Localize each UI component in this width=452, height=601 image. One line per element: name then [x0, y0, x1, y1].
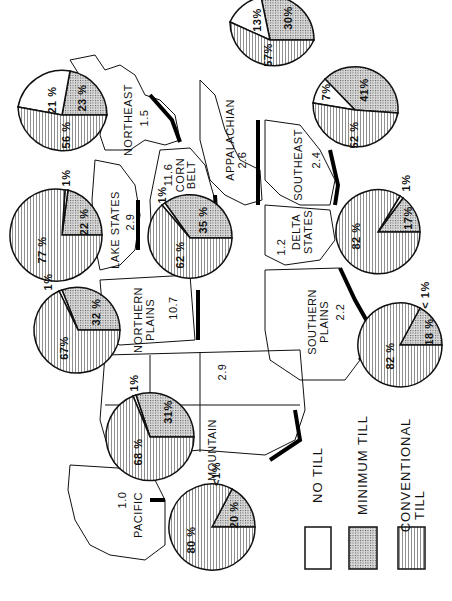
- legend: [305, 527, 425, 569]
- region-value-northeast: 1.5: [139, 110, 150, 127]
- pie-label-pacific-minimum-till: 20 %: [229, 501, 240, 528]
- region-label-belt: BELT: [186, 161, 197, 190]
- region-value-lake-states: 2.9: [125, 214, 136, 231]
- pie-label-lake-states-minimum-till: 22 %: [79, 208, 90, 235]
- pie-label-corn-belt-no-till: 1%: [157, 187, 168, 204]
- region-label-pacific: PACIFIC: [133, 492, 144, 538]
- pie-label-mountain-minimum-till: 31%: [163, 400, 174, 424]
- pie-label-northeast-no-till: 21 %: [47, 86, 58, 113]
- pie-label-southern-plains-minimum-till: 18 %: [424, 318, 435, 345]
- legend-swatch-minimum-till: [349, 527, 377, 569]
- region-value-southeast: 2.4: [311, 152, 322, 169]
- pie-label-lake-states-no-till: 1%: [61, 170, 72, 187]
- legend-label-conventional: CONVENTIONAL: [399, 418, 413, 533]
- region-value-pacific: 1.0: [117, 492, 128, 509]
- tillage-map-figure: [0, 0, 452, 601]
- region-label-lake-states: LAKE STATES: [110, 191, 121, 269]
- pie-label-southeast-minimum-till: 41%: [359, 78, 370, 102]
- region-label-northern: NORTHERN: [133, 287, 144, 353]
- pie-label-northeast-minimum-till: 23 %: [77, 84, 88, 111]
- pie-label-southeast-no-till: 7%: [321, 84, 332, 101]
- region-label-southeast: SOUTHEAST: [293, 129, 304, 201]
- region-label-appalachian: APPALACHIAN: [225, 99, 236, 181]
- region-label-plains-south: PLAINS: [319, 301, 330, 343]
- region-label-states: STATES: [303, 210, 314, 254]
- pie-label-mountain-conventional-till: 68 %: [133, 438, 144, 465]
- pie-label-southern-plains-no-till: < 1%: [420, 281, 431, 308]
- region-label-southern: SOUTHERN: [307, 289, 318, 355]
- pie-label-lake-states-conventional-till: 77 %: [37, 236, 48, 263]
- region-label-plains-north: PLAINS: [145, 299, 156, 341]
- pie-label-corn-belt-minimum-till: 35 %: [198, 206, 209, 233]
- pie-label-northern-plains-minimum-till: 32 %: [91, 298, 102, 325]
- pie-label-delta-states-minimum-till: 17%: [403, 206, 414, 230]
- pie-northern-plains: [34, 287, 120, 373]
- region-label-northeast: NORTHEAST: [123, 84, 134, 156]
- legend-label-till: TILL: [413, 490, 427, 520]
- pie-label-corn-belt-conventional-till: 62 %: [175, 241, 186, 268]
- region-value-corn-belt: 11.6: [163, 164, 174, 187]
- region-value-appalachian: 2.6: [237, 152, 248, 169]
- region-value-southern-plains: 2.2: [335, 304, 346, 321]
- pie-label-delta-states-no-till: 1%: [401, 175, 412, 192]
- pie-label-northeast-conventional-till: 56 %: [61, 121, 72, 148]
- pie-label-southeast-conventional-till: 52 %: [349, 121, 360, 148]
- region-value-northern-plains: 10.7: [168, 296, 179, 319]
- pie-label-southern-plains-conventional-till: 82 %: [385, 342, 396, 369]
- pie-pacific: [169, 484, 255, 570]
- legend-label-no-till: NO TILL: [311, 447, 325, 503]
- pie-label-northern-plains-conventional-till: 67%: [59, 336, 70, 360]
- pie-label-delta-states-conventional-till: 82 %: [351, 222, 362, 249]
- pie-label-pacific-no-till: <1%: [211, 462, 222, 486]
- pie-label-appalachian-minimum-till: 30%: [283, 6, 294, 30]
- pie-label-appalachian-conventional-till: 57%: [263, 43, 274, 67]
- pie-corn-belt: [148, 195, 232, 279]
- legend-swatch-no-till: [305, 527, 331, 569]
- pie-label-appalachian-no-till: 13%: [252, 8, 263, 32]
- legend-label-minimum-till: MINIMUM TILL: [356, 415, 370, 515]
- region-value-mountain: 2.9: [217, 364, 228, 381]
- pie-mountain: [106, 393, 194, 481]
- pie-label-pacific-conventional-till: 80 %: [186, 526, 197, 553]
- region-label-delta: DELTA: [291, 214, 302, 250]
- pie-label-northern-plains-no-till: 1%: [43, 274, 54, 291]
- legend-swatch-conventional-till: [398, 527, 425, 569]
- region-value-delta-states: 1.2: [276, 239, 287, 256]
- pie-label-mountain-no-till: 1%: [129, 375, 140, 392]
